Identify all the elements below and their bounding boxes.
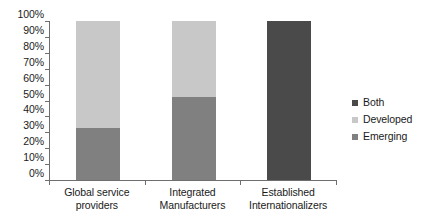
y-tick-label: 30%	[0, 120, 44, 130]
x-axis-category-label: EstablishedInternationalizers	[236, 186, 340, 212]
y-tick-label: 20%	[0, 136, 44, 146]
x-axis-category-label-line: Global service	[45, 186, 149, 199]
bar-group[interactable]	[76, 21, 120, 180]
y-tick-label: 40%	[0, 104, 44, 114]
stacked-bar-chart: 0%10%20%30%40%50%60%70%80%90%100% Global…	[0, 0, 427, 224]
x-tick-mark	[145, 180, 146, 185]
bar-segment-developed[interactable]	[172, 21, 216, 97]
bar-segment-both[interactable]	[267, 21, 311, 180]
plot-area	[50, 21, 337, 180]
x-tick-mark	[49, 180, 50, 185]
legend-item[interactable]: Both	[352, 94, 426, 111]
y-axis: 0%10%20%30%40%50%60%70%80%90%100%	[0, 14, 44, 180]
y-tick-mark	[45, 85, 49, 86]
y-tick-label: 70%	[0, 57, 44, 67]
legend-swatch-icon	[352, 134, 358, 140]
x-axis-category-label: Global serviceproviders	[45, 186, 149, 212]
x-axis-category-label-line: Internationalizers	[236, 199, 340, 212]
chart-legend: BothDevelopedEmerging	[352, 94, 426, 145]
legend-swatch-icon	[352, 117, 358, 123]
x-axis-category-label-line: providers	[45, 199, 149, 212]
y-tick-mark	[45, 101, 49, 102]
y-tick-label: 60%	[0, 73, 44, 83]
x-axis-category-label: IntegratedManufacturers	[141, 186, 245, 212]
y-tick-mark	[45, 148, 49, 149]
y-tick-label: 50%	[0, 89, 44, 99]
y-tick-mark	[45, 132, 49, 133]
y-tick-label: 10%	[0, 152, 44, 162]
legend-swatch-icon	[352, 100, 358, 106]
y-tick-mark	[45, 37, 49, 38]
x-tick-mark	[336, 180, 337, 185]
legend-label: Both	[363, 97, 384, 108]
bar-segment-developed[interactable]	[76, 21, 120, 128]
y-tick-label: 100%	[0, 9, 44, 19]
y-tick-label: 0%	[0, 168, 44, 178]
legend-label: Developed	[363, 114, 412, 125]
y-tick-label: 90%	[0, 25, 44, 35]
y-tick-mark	[45, 69, 49, 70]
bar-group[interactable]	[172, 21, 216, 180]
y-tick-label: 80%	[0, 41, 44, 51]
y-tick-mark	[45, 21, 49, 22]
y-tick-mark	[45, 116, 49, 117]
y-tick-mark	[45, 164, 49, 165]
bar-stack	[76, 21, 120, 180]
bar-group[interactable]	[267, 21, 311, 180]
x-axis-category-label-line: Manufacturers	[141, 199, 245, 212]
bar-stack	[172, 21, 216, 180]
legend-item[interactable]: Emerging	[352, 128, 426, 145]
bar-stack	[267, 21, 311, 180]
y-tick-mark	[45, 53, 49, 54]
x-axis-labels: Global serviceprovidersIntegratedManufac…	[49, 186, 337, 220]
x-axis-category-label-line: Integrated	[141, 186, 245, 199]
x-axis-category-label-line: Established	[236, 186, 340, 199]
x-tick-mark	[240, 180, 241, 185]
x-axis-line	[49, 180, 337, 181]
bar-segment-emerging[interactable]	[76, 128, 120, 180]
legend-item[interactable]: Developed	[352, 111, 426, 128]
bar-segment-emerging[interactable]	[172, 97, 216, 180]
legend-label: Emerging	[363, 131, 407, 142]
